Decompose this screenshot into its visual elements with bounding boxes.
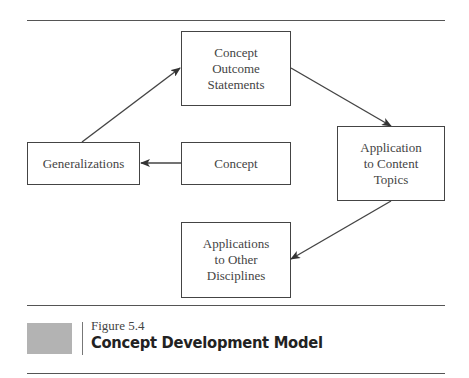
- node-label: Generalizations: [43, 156, 125, 172]
- caption-divider: [82, 322, 83, 355]
- node-generalizations: Generalizations: [27, 142, 140, 185]
- arrow-outcome-to-application: [291, 68, 391, 126]
- arrow-application-to-disciplines: [291, 201, 391, 259]
- figure-number: Figure 5.4: [91, 318, 144, 334]
- node-concept: Concept: [181, 142, 291, 185]
- node-label: Concept Outcome Statements: [207, 45, 264, 93]
- caption-swatch: [27, 323, 72, 354]
- node-application-content-topics: Application to Content Topics: [337, 126, 445, 201]
- node-concept-outcome-statements: Concept Outcome Statements: [181, 31, 291, 106]
- node-label: Applications to Other Disciplines: [203, 236, 269, 284]
- node-label: Application to Content Topics: [360, 140, 421, 188]
- node-applications-other-disciplines: Applications to Other Disciplines: [181, 222, 291, 298]
- node-label: Concept: [214, 156, 257, 172]
- caption-top-rule: [27, 305, 445, 306]
- figure-title: Concept Development Model: [91, 333, 323, 352]
- caption-bottom-rule: [27, 373, 445, 374]
- arrow-generalizations-to-outcome: [82, 68, 180, 142]
